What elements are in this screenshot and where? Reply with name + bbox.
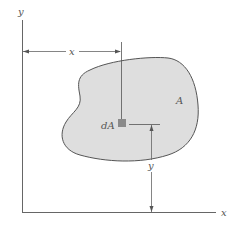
region-a-label: A [175, 95, 183, 106]
da-element-square [118, 119, 126, 127]
x-dimension-arrowhead-left [23, 50, 29, 54]
area-element-diagram: y x x dA y A [0, 0, 238, 228]
y-dimension-arrowhead-bottom [150, 206, 154, 212]
da-label: dA [101, 120, 115, 131]
y-axis-label: y [17, 6, 24, 17]
region-a-shape [62, 58, 198, 162]
x-dimension-label: x [69, 46, 75, 57]
y-dimension-label: y [147, 160, 154, 171]
x-dimension-arrowhead-right [115, 50, 121, 54]
x-axis-label: x [221, 207, 227, 218]
